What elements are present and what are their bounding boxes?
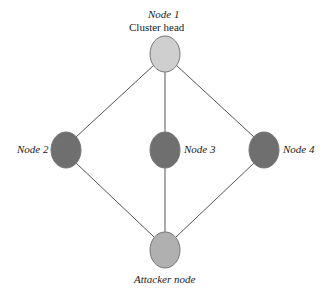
attacker-node-label: Attacker node: [134, 273, 195, 285]
node2-label: Node 2: [17, 143, 48, 155]
node4: [249, 132, 279, 168]
node3-label: Node 3: [184, 143, 215, 155]
edge-node4-attacker: [176, 163, 254, 237]
node1-label: Node 1: [148, 8, 179, 20]
attacker-node: [150, 232, 180, 268]
edge-node2-attacker: [76, 163, 154, 237]
node4-label: Node 4: [283, 143, 314, 155]
edge-node1-node4: [176, 65, 254, 137]
edge-node1-node2: [76, 65, 154, 137]
node1-cluster-head: [150, 36, 180, 72]
node3: [150, 132, 180, 168]
cluster-head-label: Cluster head: [129, 21, 184, 33]
node2: [51, 132, 81, 168]
